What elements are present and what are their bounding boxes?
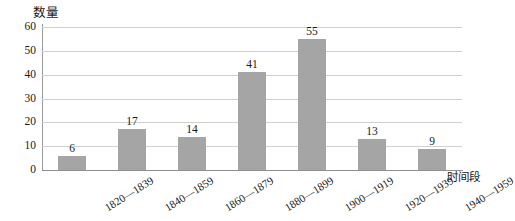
x-axis-tick-label: 1840—1859 — [162, 174, 215, 213]
x-axis-tick-label: 1880—1899 — [282, 174, 335, 213]
bar[interactable] — [178, 137, 206, 170]
y-axis-tick-label: 10 — [10, 140, 36, 152]
y-axis-tick-label: 50 — [10, 45, 36, 57]
plot-area: 617144155139 — [42, 27, 462, 170]
bar-value-label: 17 — [102, 115, 162, 127]
x-axis-tick-label: 1920—1939 — [402, 174, 455, 213]
bar[interactable] — [298, 39, 326, 170]
x-axis-line — [42, 170, 463, 171]
bar-value-label: 6 — [42, 142, 102, 154]
bar[interactable] — [358, 139, 386, 170]
bar-value-label: 9 — [402, 135, 462, 147]
x-axis-tick-label: 1820—1839 — [102, 174, 155, 213]
x-axis-tick-label: 1860—1879 — [222, 174, 275, 213]
bar[interactable] — [418, 149, 446, 170]
bar-value-label: 13 — [342, 125, 402, 137]
y-axis-title: 数量 — [33, 6, 59, 21]
bar-value-label: 14 — [162, 123, 222, 135]
y-axis-tick-label: 0 — [10, 164, 36, 176]
y-axis-tick-label: 60 — [10, 21, 36, 33]
bar-value-label: 41 — [222, 58, 282, 70]
y-axis-tick-label: 30 — [10, 93, 36, 105]
y-axis-tick-label: 20 — [10, 116, 36, 128]
y-axis-tick-label: 40 — [10, 69, 36, 81]
bar[interactable] — [118, 129, 146, 170]
bar[interactable] — [238, 72, 266, 170]
bar[interactable] — [58, 156, 86, 170]
x-axis-tick-label: 1900—1919 — [342, 174, 395, 213]
bar-value-label: 55 — [282, 25, 342, 37]
